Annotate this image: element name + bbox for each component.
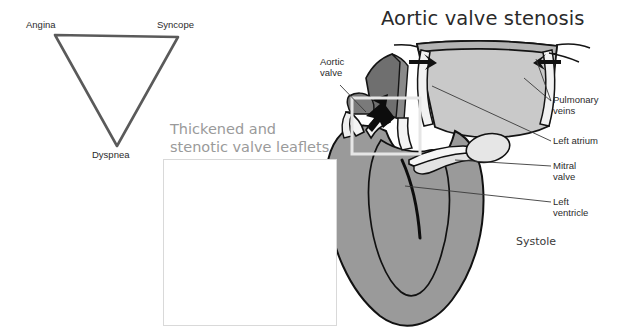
- callout-pulmonary-veins: Pulmonaryveins: [553, 95, 598, 116]
- callout-mitral-valve-line2: valve: [553, 171, 575, 182]
- page-title: Aortic valve stenosis: [381, 8, 585, 30]
- callout-aortic-valve-line2: valve: [320, 67, 342, 78]
- callout-aortic-valve: Aorticvalve: [320, 57, 344, 78]
- symptom-triad-triangle: [55, 35, 178, 146]
- phase-label-systole: Systole: [516, 236, 556, 248]
- inset-frame: [163, 159, 337, 326]
- triangle-outline: [55, 35, 178, 146]
- callout-pulmonary-veins-line1: Pulmonary: [553, 94, 598, 105]
- triangle-label-dyspnea: Dyspnea: [92, 150, 130, 161]
- lv-outflow-wall: [398, 118, 412, 150]
- callout-left-atrium: Left atrium: [553, 136, 598, 147]
- inset-caption-line1: Thickened and: [170, 121, 276, 137]
- heart-diagram: [326, 41, 590, 326]
- triangle-label-angina: Angina: [26, 20, 56, 31]
- callout-left-ventricle-line2: ventricle: [553, 207, 588, 218]
- triangle-label-syncope: Syncope: [157, 20, 194, 31]
- pulmonary-vein-left: [394, 45, 418, 47]
- inset-caption: Thickened andstenotic valve leaflets: [170, 121, 329, 156]
- callout-mitral-valve: Mitralvalve: [553, 161, 576, 182]
- callout-left-ventricle-line1: Left: [553, 196, 569, 207]
- callout-pulmonary-veins-line2: veins: [553, 105, 575, 116]
- inset-caption-line2: stenotic valve leaflets: [170, 139, 329, 155]
- callout-aortic-valve-line1: Aortic: [320, 56, 344, 67]
- pulmonary-vein-right: [556, 44, 590, 48]
- figure-canvas: Aortic valve stenosis Angina Syncope Dys…: [0, 0, 623, 334]
- callout-left-ventricle: Leftventricle: [553, 197, 588, 218]
- callout-mitral-valve-line1: Mitral: [553, 160, 576, 171]
